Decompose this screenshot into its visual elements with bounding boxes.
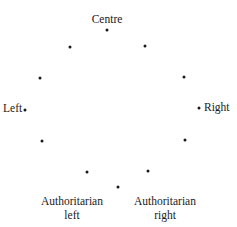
spectrum-point [106, 29, 109, 32]
spectrum-point [86, 171, 89, 174]
spectrum-point [147, 170, 150, 173]
spectrum-diagram: Centre Left Right Authoritarian left Aut… [0, 0, 237, 227]
spectrum-point [39, 77, 42, 80]
spectrum-point [69, 46, 72, 49]
spectrum-point [117, 186, 120, 189]
spectrum-point [41, 140, 44, 143]
spectrum-point [144, 45, 147, 48]
label-authoritarian-right-line1: Authoritarian [134, 194, 196, 208]
spectrum-point [24, 109, 27, 112]
label-authoritarian-left: Authoritarian left [41, 194, 103, 222]
label-authoritarian-left-line1: Authoritarian [41, 194, 103, 208]
spectrum-point [198, 107, 201, 110]
label-authoritarian-right-line2: right [134, 208, 196, 222]
spectrum-point [183, 76, 186, 79]
spectrum-point [184, 139, 187, 142]
label-authoritarian-right: Authoritarian right [134, 194, 196, 222]
label-left: Left [3, 101, 22, 115]
label-right: Right [204, 100, 230, 114]
label-centre: Centre [92, 12, 123, 26]
label-authoritarian-left-line2: left [41, 208, 103, 222]
